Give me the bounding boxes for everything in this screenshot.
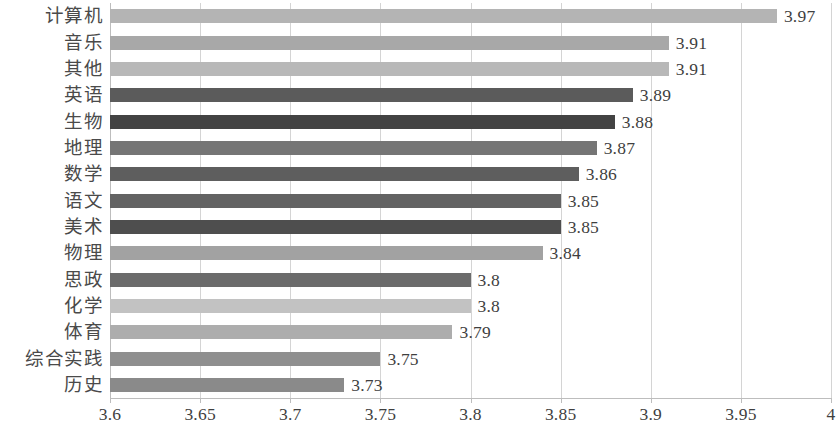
bar-英语[interactable] [110,88,633,102]
category-label-生物: 生物 [0,111,103,133]
category-label-语文: 语文 [0,190,103,212]
bar-row: 3.73 [110,378,831,392]
bar-chart: 计算机音乐其他英语生物地理数学语文美术物理思政化学体育综合实践历史 3.973.… [0,0,837,425]
bar-语文[interactable] [110,194,561,208]
bar-row: 3.91 [110,62,831,76]
category-label-英语: 英语 [0,84,103,106]
bar-row: 3.85 [110,220,831,234]
bar-美术[interactable] [110,220,561,234]
bar-value-label-综合实践: 3.75 [387,347,418,371]
gridline-4 [831,3,832,398]
category-label-美术: 美术 [0,216,103,238]
x-tick-label-3.85: 3.85 [545,403,576,425]
bar-计算机[interactable] [110,9,777,23]
bar-row: 3.86 [110,167,831,181]
bar-value-label-体育: 3.79 [459,320,490,344]
bar-化学[interactable] [110,299,471,313]
x-tick-label-3.7: 3.7 [279,403,301,425]
category-label-物理: 物理 [0,242,103,264]
bar-其他[interactable] [110,62,669,76]
bar-思政[interactable] [110,273,471,287]
x-tick-label-3.75: 3.75 [365,403,396,425]
category-label-体育: 体育 [0,321,103,343]
bar-体育[interactable] [110,325,452,339]
bar-row: 3.91 [110,36,831,50]
bar-row: 3.97 [110,9,831,23]
bar-value-label-思政: 3.8 [478,268,500,292]
bar-value-label-计算机: 3.97 [784,4,815,28]
x-tick-label-3.6: 3.6 [99,403,121,425]
x-tick-label-3.65: 3.65 [184,403,215,425]
bar-value-label-语文: 3.85 [568,189,599,213]
bar-row: 3.8 [110,299,831,313]
y-axis-category-labels: 计算机音乐其他英语生物地理数学语文美术物理思政化学体育综合实践历史 [0,0,103,398]
x-tick-label-3.95: 3.95 [725,403,756,425]
bar-value-label-物理: 3.84 [550,241,581,265]
x-tick-label-3.9: 3.9 [640,403,662,425]
bar-value-label-地理: 3.87 [604,136,635,160]
category-label-计算机: 计算机 [0,5,103,27]
category-label-思政: 思政 [0,269,103,291]
bar-物理[interactable] [110,246,543,260]
bar-value-label-其他: 3.91 [676,57,707,81]
bar-生物[interactable] [110,115,615,129]
bar-综合实践[interactable] [110,352,380,366]
bar-row: 3.87 [110,141,831,155]
category-label-数学: 数学 [0,163,103,185]
category-label-历史: 历史 [0,374,103,396]
bar-row: 3.79 [110,325,831,339]
category-label-化学: 化学 [0,295,103,317]
bar-row: 3.84 [110,246,831,260]
bar-value-label-音乐: 3.91 [676,31,707,55]
x-tick-label-3.8: 3.8 [459,403,481,425]
bar-value-label-生物: 3.88 [622,110,653,134]
bar-value-label-化学: 3.8 [478,294,500,318]
category-label-地理: 地理 [0,137,103,159]
bar-value-label-英语: 3.89 [640,83,671,107]
bar-地理[interactable] [110,141,597,155]
bar-音乐[interactable] [110,36,669,50]
plot-area: 3.973.913.913.893.883.873.863.853.853.84… [110,3,831,398]
bar-row: 3.88 [110,115,831,129]
bar-value-label-数学: 3.86 [586,162,617,186]
bar-数学[interactable] [110,167,579,181]
bar-value-label-历史: 3.73 [351,373,382,397]
bar-历史[interactable] [110,378,344,392]
bar-row: 3.89 [110,88,831,102]
bar-value-label-美术: 3.85 [568,215,599,239]
bar-row: 3.8 [110,273,831,287]
category-label-音乐: 音乐 [0,32,103,54]
bar-row: 3.75 [110,352,831,366]
category-label-综合实践: 综合实践 [0,348,103,370]
bar-row: 3.85 [110,194,831,208]
x-tick-label-4: 4 [827,403,836,425]
category-label-其他: 其他 [0,58,103,80]
